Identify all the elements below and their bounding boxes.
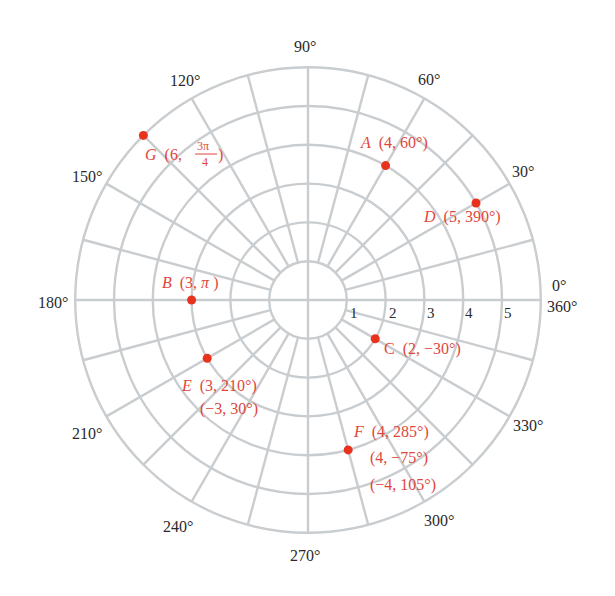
spoke-255 (248, 337, 298, 524)
angle-label-210: 210° (72, 425, 102, 442)
point-coords-g-open: (6, (165, 146, 182, 164)
point-label-e-alt: (−3, 30°) (200, 400, 258, 418)
point-label-a: A (4, 60°) (360, 134, 428, 152)
point-label-d: D (5, 390°) (423, 208, 501, 226)
point-close-b: ) (213, 274, 218, 292)
point-name-a: A (360, 134, 371, 151)
point-a (381, 161, 390, 170)
point-d (472, 199, 481, 208)
angle-label-300: 300° (424, 512, 454, 529)
point-frac-num-g: 3π (197, 139, 209, 153)
radius-label-4: 4 (465, 305, 473, 321)
point-coords-a: (4, 60°) (379, 134, 428, 152)
point-label-e: E (3, 210°) (181, 377, 257, 395)
angle-label-360: 360° (547, 298, 577, 315)
point-close-g: ) (218, 146, 223, 164)
spoke-75 (318, 75, 368, 262)
angle-label-180: 180° (38, 294, 68, 311)
angle-label-270: 270° (290, 547, 320, 564)
point-name-b: B (162, 274, 172, 291)
point-name-c: C (384, 340, 395, 357)
point-coords-d: (5, 390°) (444, 208, 501, 226)
point-label-c: C (2, −30°) (384, 340, 461, 358)
point-coords-e1: (3, 210°) (200, 377, 257, 395)
radius-label-5: 5 (504, 305, 512, 321)
spoke-165 (83, 240, 270, 290)
angle-label-0: 0° (552, 277, 566, 294)
radius-label-3: 3 (427, 305, 435, 321)
angle-label-120: 120° (170, 72, 200, 89)
point-label-f-alt1: (4, −75°) (370, 449, 428, 467)
point-name-f: F (353, 423, 364, 440)
point-label-f-alt2: (−4, 105°) (370, 476, 436, 494)
angle-label-330: 330° (513, 417, 543, 434)
radius-label-1: 1 (350, 305, 358, 321)
point-label-b: B (3, π ) (162, 274, 218, 292)
point-c (371, 334, 380, 343)
point-pi-b: π (201, 274, 210, 291)
polar-coordinate-diagram: 90° 60° 30° 0° 360° 330° 300° 270° 240° … (0, 0, 615, 596)
point-name-d: D (423, 208, 436, 225)
point-coords-c: (2, −30°) (403, 340, 461, 358)
point-frac-den-g: 4 (202, 155, 208, 169)
point-name-e: E (181, 377, 192, 394)
spoke-45 (335, 135, 472, 272)
angle-label-60: 60° (418, 71, 440, 88)
angle-label-240: 240° (163, 518, 193, 535)
spoke-195 (83, 310, 270, 360)
angle-label-90: 90° (294, 38, 316, 55)
spoke-15 (345, 240, 532, 290)
spoke-105 (248, 75, 298, 262)
point-coords-b: (3, (180, 274, 201, 292)
angle-label-150: 150° (72, 168, 102, 185)
angle-label-30: 30° (512, 163, 534, 180)
point-b (187, 296, 196, 305)
point-label-f: F (4, 285°) (353, 423, 429, 441)
point-name-g: G (145, 146, 157, 163)
point-f (344, 445, 353, 454)
point-coords-f1: (4, 285°) (372, 423, 429, 441)
radius-label-2: 2 (389, 305, 397, 321)
point-e (203, 354, 212, 363)
spoke-225 (143, 327, 280, 464)
point-g (139, 131, 148, 140)
